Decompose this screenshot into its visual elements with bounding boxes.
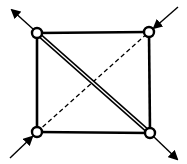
node-bottom-right [145,128,155,138]
edge-top [37,32,149,33]
arrow-out-top-left [12,10,33,29]
edge-bottom [37,132,150,133]
node-top-left [32,28,42,38]
arrow-in-bottom-left [10,137,32,158]
node-top-right [144,27,154,37]
edge-right [149,32,150,133]
edge-diagonal-double [37,33,150,133]
diagram-canvas [0,0,187,164]
graph-diagram [0,0,187,164]
arrow-out-bottom-right [154,137,177,159]
node-bottom-left [32,127,42,137]
arrow-in-top-right [154,7,178,28]
